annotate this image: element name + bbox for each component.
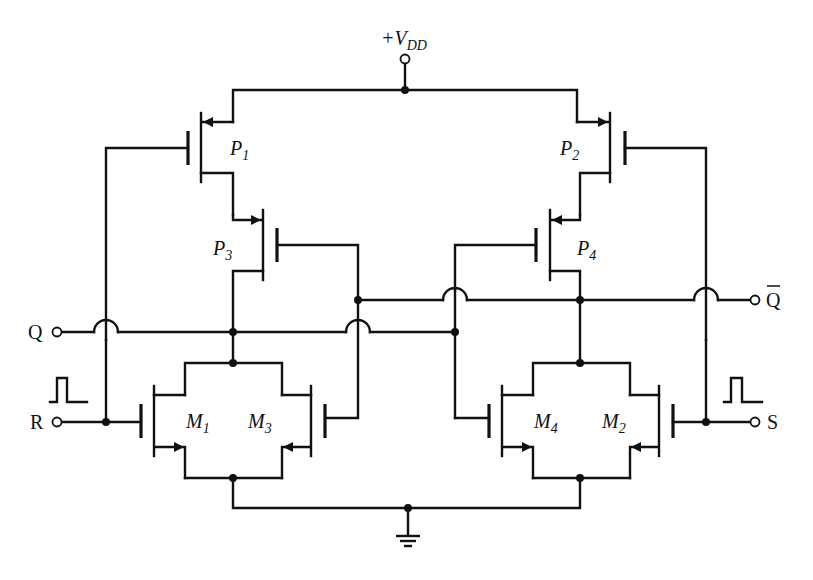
transistor-p4: P4 <box>455 210 596 363</box>
q-net: Q <box>28 320 459 343</box>
transistor-p3: P3 <box>212 210 358 363</box>
m2-label: M2 <box>601 410 626 436</box>
p4-source-arrow-icon <box>552 215 562 225</box>
m4-label: M4 <box>533 410 558 436</box>
m3-source-arrow-icon <box>283 442 293 452</box>
m4-source-arrow-icon <box>522 442 532 452</box>
transistor-p1: P1 <box>106 113 249 340</box>
vdd-label: +VDD <box>381 27 427 53</box>
p4-label: P4 <box>576 237 596 263</box>
q-label: Q <box>28 321 43 343</box>
s-label: S <box>767 411 778 433</box>
q-terminal[interactable] <box>53 328 62 337</box>
s-terminal[interactable] <box>751 418 760 427</box>
p3-label: P3 <box>212 237 232 263</box>
vdd-rail <box>233 90 577 122</box>
ground-icon <box>396 536 420 546</box>
m2-source-arrow-icon <box>631 442 641 452</box>
r-input: R <box>30 378 141 433</box>
vdd-terminal <box>401 55 410 64</box>
q-bar-terminal[interactable] <box>751 296 760 305</box>
p1-source-arrow-icon <box>203 117 213 127</box>
r-terminal[interactable] <box>53 418 62 427</box>
m1-source-arrow-icon <box>174 442 184 452</box>
q-bar-label: Q <box>766 289 781 311</box>
m1-label: M1 <box>185 410 210 436</box>
q-bar-net: Q <box>354 286 781 418</box>
nmos-pair-right: M4 M2 <box>455 359 673 482</box>
pulse-icon-s <box>724 378 762 402</box>
circuit-schematic: +VDD P1 P3 P2 <box>0 0 813 580</box>
s-input: S <box>673 378 778 433</box>
p1-label: P1 <box>229 137 249 163</box>
p2-source-arrow-icon <box>598 117 608 127</box>
p2-label: P2 <box>559 137 579 163</box>
pulse-icon-r <box>50 378 87 402</box>
vdd-supply: +VDD <box>233 27 577 122</box>
m3-gate-wire <box>326 300 358 418</box>
ground <box>233 478 580 546</box>
nmos-pair-left: M1 M3 <box>141 359 325 482</box>
p3-source-arrow-icon <box>251 215 261 225</box>
r-label: R <box>30 411 44 433</box>
m3-label: M3 <box>247 410 272 436</box>
